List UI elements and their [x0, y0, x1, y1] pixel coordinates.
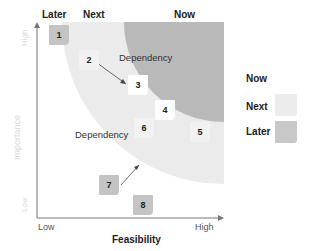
legend-label-next: Next [246, 101, 268, 112]
legend-swatch-later [275, 121, 297, 143]
legend-label-later: Later [246, 126, 270, 137]
legend-swatch-next [275, 94, 297, 116]
x-axis-title: Feasibility [112, 234, 161, 245]
x-axis-low-label: Low [38, 222, 55, 232]
legend-swatch-now [275, 68, 297, 90]
y-axis-arrow-icon [34, 22, 40, 28]
x-axis-arrow-icon [218, 215, 224, 221]
x-axis-high-label: High [195, 222, 214, 232]
legend-label-now: Now [246, 73, 267, 84]
